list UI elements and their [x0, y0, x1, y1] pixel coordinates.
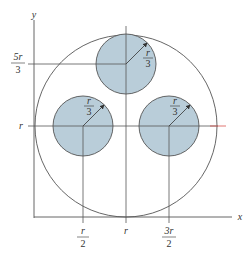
svg-text:r: r	[81, 225, 85, 236]
svg-text:2: 2	[167, 238, 172, 249]
x-tick-3r-2: 3r 2	[162, 225, 176, 249]
svg-text:r: r	[87, 95, 91, 106]
y-axis-label: y	[31, 9, 37, 20]
inscribed-circles-diagram: r 3 r 3 r 3 y x 5r 3 r r 2 r 3r 2	[0, 0, 252, 261]
svg-text:3: 3	[16, 64, 21, 75]
svg-text:5r: 5r	[14, 51, 23, 62]
y-tick-r: r	[19, 120, 23, 131]
x-axis-label: x	[237, 211, 243, 222]
svg-text:r: r	[173, 95, 177, 106]
svg-text:3: 3	[87, 106, 92, 117]
x-tick-r-2: r 2	[77, 225, 89, 249]
svg-text:3: 3	[146, 58, 151, 69]
svg-text:r: r	[146, 47, 150, 58]
svg-text:3r: 3r	[164, 225, 174, 236]
x-tick-r: r	[124, 225, 128, 236]
svg-text:2: 2	[81, 238, 86, 249]
svg-text:3: 3	[173, 106, 178, 117]
y-tick-5r-3: 5r 3	[11, 51, 25, 75]
